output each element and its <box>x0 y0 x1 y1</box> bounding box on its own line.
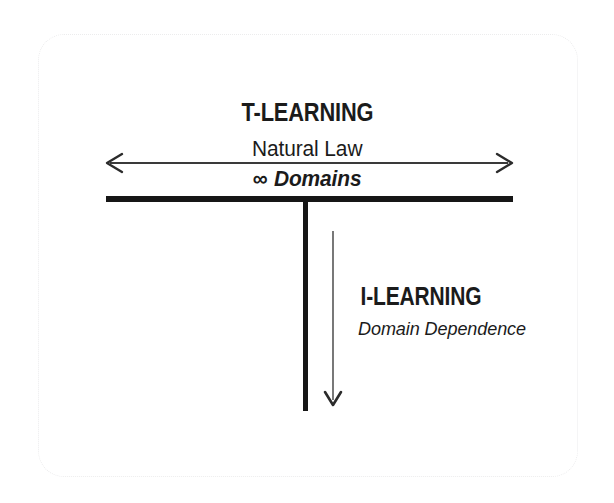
diagram-canvas: T-LEARNING Natural Law ∞ Domains I-LEARN… <box>0 0 614 503</box>
infinity-icon: ∞ <box>253 166 268 191</box>
vertical-depth-arrow <box>325 231 341 405</box>
arrow-head-down-icon <box>325 392 341 405</box>
t-shape-vertical-stem <box>303 199 308 411</box>
t-learning-title: T-LEARNING <box>50 99 566 125</box>
infinite-domains-text: Domains <box>274 166 362 191</box>
i-learning-title: I-LEARNING <box>361 284 482 309</box>
i-learning-subtitle: Domain Dependence <box>358 319 526 338</box>
t-shape-horizontal-bar <box>106 196 513 202</box>
infinite-domains-label: ∞ Domains <box>16 168 599 190</box>
t-learning-subtitle: Natural Law <box>16 138 599 160</box>
